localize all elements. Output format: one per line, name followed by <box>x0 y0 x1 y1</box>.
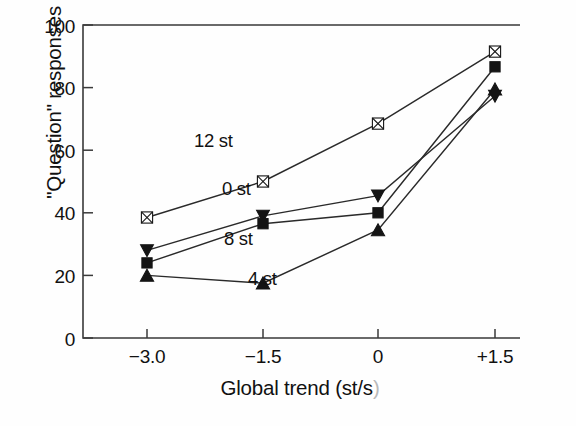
series-4st <box>140 83 501 289</box>
y-tick-label-20: 20 <box>19 267 75 286</box>
series-label-0st: 0 st <box>222 178 251 200</box>
series-0st <box>141 90 502 256</box>
axis-spines <box>83 25 520 338</box>
x-axis-title-faded-paren: ) <box>373 376 380 399</box>
series-4st-markers <box>140 83 501 289</box>
y-tickmarks <box>83 25 93 338</box>
figure-canvas: 100 80 60 40 20 0 −3.0 −1.5 0 +1.5 12 st… <box>0 0 576 426</box>
x-tick-label-neg3: −3.0 <box>107 347 187 366</box>
x-tickmarks <box>147 329 495 338</box>
x-tick-label-pos1-5: +1.5 <box>455 347 535 366</box>
y-tick-label-0: 0 <box>19 330 75 349</box>
series-0st-line <box>147 96 495 250</box>
x-axis-title-text: Global trend (st/s <box>220 376 373 399</box>
series-0st-markers <box>141 90 502 256</box>
series-label-4st: 4 st <box>248 268 277 290</box>
x-axis-title: Global trend (st/s) <box>90 376 510 400</box>
series-8st-markers <box>142 62 500 268</box>
y-axis-title: "Question" responses (%) <box>42 0 66 234</box>
x-tick-label-0: 0 <box>338 347 418 366</box>
series-label-12st: 12 st <box>194 130 233 152</box>
series-4st-line <box>147 89 495 283</box>
series-label-8st: 8 st <box>224 228 253 250</box>
series-8st <box>142 62 500 268</box>
x-tick-label-neg1-5: −1.5 <box>223 347 303 366</box>
series-8st-line <box>147 67 495 263</box>
